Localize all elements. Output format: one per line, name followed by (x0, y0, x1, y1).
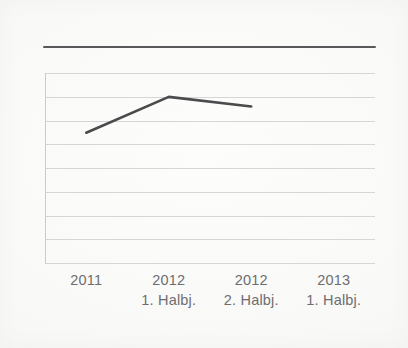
series-line-path (86, 97, 251, 133)
data-series-svg (45, 73, 375, 264)
chart-page: 2011 20121. Halbj.20122. Halbj.20131. Ha… (0, 0, 408, 348)
x-tick-year-label: 2013 (286, 270, 382, 290)
plot-area (45, 73, 375, 264)
x-axis-labels: 2011 20121. Halbj.20122. Halbj.20131. Ha… (45, 270, 375, 322)
x-tick-period-label: 1. Halbj. (286, 290, 382, 310)
top-rule-divider (43, 46, 376, 48)
x-tick-group: 20131. Halbj. (286, 270, 382, 310)
